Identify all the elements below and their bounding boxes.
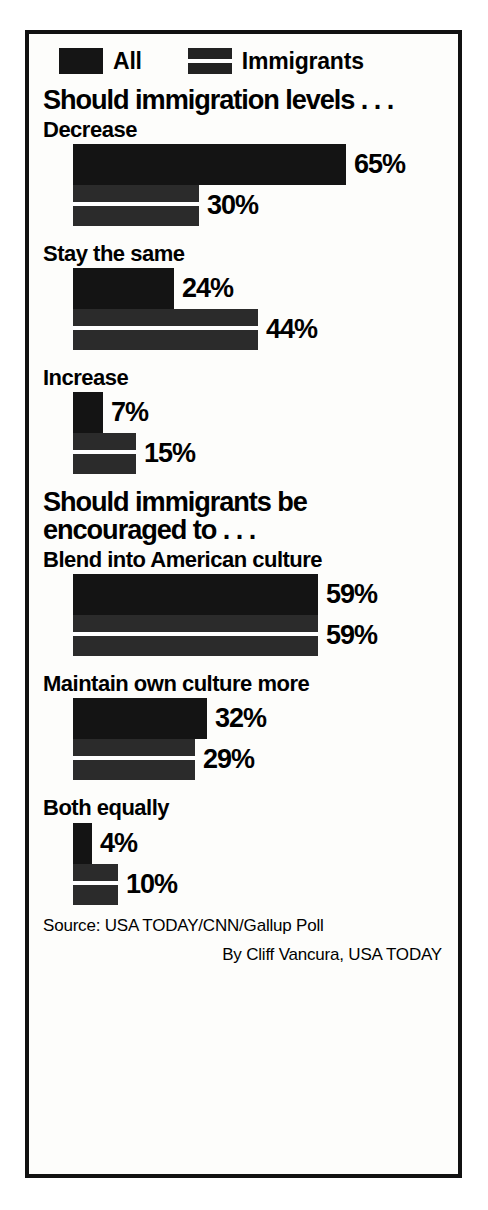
chart-footer: Source: USA TODAY/CNN/Gallup Poll By Cli…	[43, 915, 446, 967]
bar-row-immigrants: 29%	[73, 739, 446, 780]
group-both-equally: Both equally 4% 10%	[43, 796, 446, 904]
group-label-decrease: Decrease	[43, 118, 446, 141]
legend-item-all: All	[59, 48, 142, 74]
bar-all	[73, 392, 103, 433]
striped-dark-swatch-icon	[188, 48, 232, 74]
bar-row-immigrants: 59%	[73, 615, 446, 656]
group-spacer	[41, 350, 446, 366]
bar-immigrants	[73, 433, 136, 474]
bar-value-immigrants: 59%	[326, 622, 377, 649]
bar-value-all: 24%	[182, 275, 233, 302]
bar-immigrants	[73, 864, 118, 905]
bar-pair-stay-the-same: 24% 44%	[73, 268, 446, 350]
legend-item-immigrants: Immigrants	[188, 48, 364, 74]
group-label-stay-the-same: Stay the same	[43, 242, 446, 265]
section-heading-immigration-levels: Should immigration levels . . .	[43, 86, 434, 114]
credit-text: By Cliff Vancura, USA TODAY	[43, 944, 446, 967]
bar-pair-decrease: 65% 30%	[73, 144, 446, 226]
bar-pair-maintain-own-culture-more: 32% 29%	[73, 698, 446, 780]
group-label-both-equally: Both equally	[43, 796, 446, 819]
bar-row-all: 24%	[73, 268, 446, 309]
chart-legend: All Immigrants	[41, 34, 446, 78]
bar-all	[73, 144, 346, 185]
bar-immigrants	[73, 185, 199, 226]
group-blend-into-american-culture: Blend into American culture 59% 59%	[43, 548, 446, 656]
infographic-inner: All Immigrants Should immigration levels…	[29, 34, 458, 1174]
bar-all	[73, 268, 174, 309]
group-label-increase: Increase	[43, 366, 446, 389]
bar-value-all: 4%	[100, 830, 137, 857]
bar-all	[73, 574, 318, 615]
bar-value-all: 59%	[326, 581, 377, 608]
group-decrease: Decrease 65% 30%	[43, 118, 446, 226]
legend-label-all: All	[113, 50, 142, 73]
solid-dark-swatch-icon	[59, 48, 103, 74]
bar-value-immigrants: 44%	[266, 316, 317, 343]
bar-all	[73, 823, 92, 864]
bar-row-all: 32%	[73, 698, 446, 739]
group-label-maintain-own-culture-more: Maintain own culture more	[43, 672, 446, 695]
bar-row-immigrants: 44%	[73, 309, 446, 350]
bar-value-all: 32%	[215, 705, 266, 732]
bar-value-immigrants: 15%	[144, 440, 195, 467]
group-label-blend-into-american-culture: Blend into American culture	[43, 548, 446, 571]
bar-row-immigrants: 15%	[73, 433, 446, 474]
bar-value-all: 65%	[354, 151, 405, 178]
bar-row-all: 59%	[73, 574, 446, 615]
bar-pair-both-equally: 4% 10%	[73, 823, 446, 905]
bar-all	[73, 698, 207, 739]
bar-row-all: 4%	[73, 823, 446, 864]
source-text: Source: USA TODAY/CNN/Gallup Poll	[43, 915, 446, 938]
bar-pair-increase: 7% 15%	[73, 392, 446, 474]
legend-label-immigrants: Immigrants	[242, 50, 364, 73]
bar-value-immigrants: 29%	[203, 746, 254, 773]
bar-immigrants	[73, 615, 318, 656]
bar-immigrants	[73, 739, 195, 780]
bar-row-immigrants: 10%	[73, 864, 446, 905]
group-stay-the-same: Stay the same 24% 44%	[43, 242, 446, 350]
bar-row-all: 7%	[73, 392, 446, 433]
bar-immigrants	[73, 309, 258, 350]
bar-value-all: 7%	[111, 399, 148, 426]
infographic-panel: All Immigrants Should immigration levels…	[25, 30, 462, 1178]
group-spacer	[41, 226, 446, 242]
bar-value-immigrants: 30%	[207, 192, 258, 219]
group-spacer	[41, 656, 446, 672]
group-maintain-own-culture-more: Maintain own culture more 32% 29%	[43, 672, 446, 780]
section-heading-encouraged-to: Should immigrants be encouraged to . . .	[43, 488, 434, 544]
bar-pair-blend-into-american-culture: 59% 59%	[73, 574, 446, 656]
bar-value-immigrants: 10%	[126, 871, 177, 898]
bar-row-all: 65%	[73, 144, 446, 185]
group-increase: Increase 7% 15%	[43, 366, 446, 474]
bar-row-immigrants: 30%	[73, 185, 446, 226]
group-spacer	[41, 780, 446, 796]
